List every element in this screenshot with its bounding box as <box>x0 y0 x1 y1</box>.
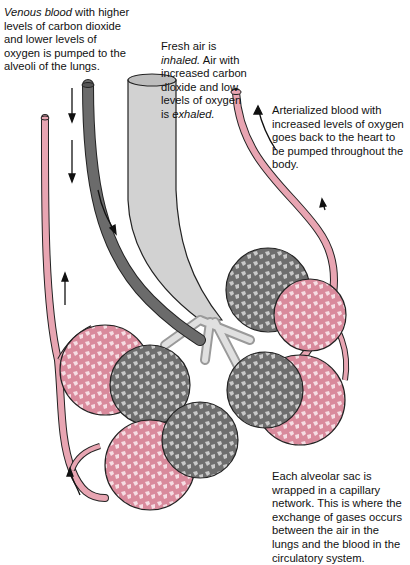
fresh-air-label: Fresh air is inhaled. Air with increased… <box>161 40 249 122</box>
arterialized-blood-label: Arterialized blood with increased levels… <box>272 104 406 172</box>
alveolar-sac-label: Each alveolar sac is wrapped in a capill… <box>272 470 408 565</box>
inhaled-emphasis: inhaled. <box>161 54 200 66</box>
fresh-air-text-1: Fresh air is <box>161 40 216 52</box>
alveolar-sac-text: Each alveolar sac is wrapped in a capill… <box>272 470 402 564</box>
venous-blood-label: Venous blood with higher levels of carbo… <box>4 6 132 74</box>
exhaled-emphasis: exhaled. <box>172 108 214 120</box>
venous-blood-emphasis: Venous blood <box>4 6 72 18</box>
arterialized-blood-text: Arterialized blood with increased levels… <box>272 104 404 170</box>
